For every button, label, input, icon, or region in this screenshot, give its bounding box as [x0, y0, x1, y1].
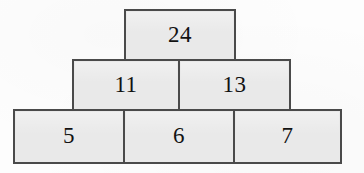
- pyramid-brick-top: 24: [124, 9, 236, 61]
- pyramid-brick-bottom-left: 5: [13, 109, 125, 164]
- pyramid-brick-value: 13: [223, 73, 247, 96]
- pyramid-brick-value: 11: [114, 73, 137, 96]
- pyramid-brick-value: 24: [168, 23, 192, 46]
- pyramid-brick-middle-right: 13: [178, 59, 291, 111]
- pyramid-brick-value: 6: [173, 124, 185, 147]
- pyramid-brick-bottom-right: 7: [233, 109, 342, 164]
- number-pyramid-figure: 24 11 13 5 6 7: [0, 0, 364, 173]
- pyramid-brick-value: 7: [282, 124, 294, 147]
- pyramid-brick-middle-left: 11: [72, 59, 180, 111]
- pyramid-brick-value: 5: [63, 124, 75, 147]
- pyramid-stack: 24 11 13 5 6 7: [0, 0, 364, 173]
- pyramid-brick-bottom-middle: 6: [123, 109, 235, 164]
